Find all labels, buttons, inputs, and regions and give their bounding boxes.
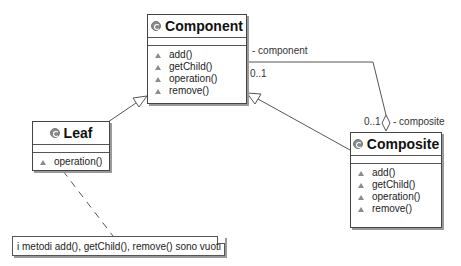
note[interactable]: i metodi add(), getChild(), remove() son…: [12, 236, 225, 256]
aggregation-diamond-icon: [382, 115, 390, 131]
note-text: i metodi add(), getChild(), remove() son…: [17, 241, 221, 252]
operation[interactable]: operation(): [358, 191, 441, 203]
multiplicity-label-component: 0..1: [250, 68, 267, 79]
operation[interactable]: add(): [155, 49, 246, 61]
role-label-composite: - composite: [393, 116, 445, 127]
class-composite[interactable]: Composite add() getChild() operation() r…: [350, 132, 442, 228]
attributes-compartment: [33, 145, 109, 153]
note-fold-icon: [217, 236, 225, 244]
multiplicity-label-composite: 0..1: [364, 116, 381, 127]
class-leaf[interactable]: Leaf operation(): [32, 121, 110, 171]
operation[interactable]: getChild(): [358, 179, 441, 191]
class-header: Composite: [351, 133, 441, 156]
class-name: Composite: [367, 136, 439, 152]
package-visibility-icon: [40, 160, 46, 165]
association-line: [246, 62, 386, 115]
generalization-arrow-icon: [133, 96, 147, 107]
operation[interactable]: operation(): [155, 73, 246, 85]
operation[interactable]: getChild(): [155, 61, 246, 73]
class-header: Component: [148, 15, 246, 38]
operation[interactable]: add(): [358, 167, 441, 179]
operation[interactable]: remove(): [358, 203, 441, 215]
class-name: Component: [165, 18, 243, 34]
note-anchor-line: [63, 171, 113, 236]
operation[interactable]: operation(): [40, 156, 109, 168]
operation[interactable]: remove(): [155, 85, 246, 97]
class-component[interactable]: Component add() getChild() operation() r…: [147, 14, 247, 104]
package-visibility-icon: [358, 207, 364, 212]
package-visibility-icon: [358, 171, 364, 176]
operations-compartment: add() getChild() operation() remove(): [148, 46, 246, 100]
class-icon: [353, 139, 363, 149]
package-visibility-icon: [155, 53, 161, 58]
package-visibility-icon: [155, 65, 161, 70]
operations-compartment: operation(): [33, 153, 109, 171]
package-visibility-icon: [358, 183, 364, 188]
class-header: Leaf: [33, 122, 109, 145]
attributes-compartment: [148, 38, 246, 46]
package-visibility-icon: [358, 195, 364, 200]
generalization-line-leaf: [108, 103, 136, 122]
package-visibility-icon: [155, 89, 161, 94]
generalization-arrow-icon: [247, 93, 261, 104]
generalization-line-composite: [258, 99, 350, 150]
class-icon: [151, 21, 161, 31]
package-visibility-icon: [155, 77, 161, 82]
attributes-compartment: [351, 156, 441, 164]
class-name: Leaf: [64, 125, 93, 141]
operations-compartment: add() getChild() operation() remove(): [351, 164, 441, 218]
role-label-component: - component: [252, 45, 308, 56]
class-icon: [50, 128, 60, 138]
